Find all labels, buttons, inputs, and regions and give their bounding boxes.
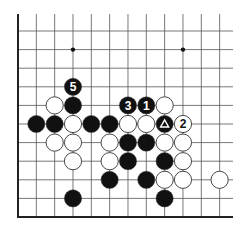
go-board: 5312 bbox=[0, 0, 249, 230]
black-stone-icon bbox=[83, 115, 100, 132]
white-stone-icon bbox=[101, 153, 118, 170]
white-stone bbox=[156, 171, 173, 188]
black-stone bbox=[101, 171, 118, 188]
white-stone bbox=[46, 97, 63, 114]
black-stone: 5 bbox=[64, 78, 81, 95]
black-stone bbox=[156, 153, 173, 170]
move-number-label: 2 bbox=[180, 117, 187, 131]
black-stone bbox=[156, 115, 173, 132]
black-stone-icon bbox=[101, 171, 118, 188]
white-stone bbox=[138, 115, 155, 132]
white-stone-icon bbox=[138, 115, 155, 132]
white-stone bbox=[156, 97, 173, 114]
black-stone bbox=[28, 115, 45, 132]
white-stone bbox=[101, 153, 118, 170]
black-stone-icon bbox=[156, 190, 173, 207]
white-stone bbox=[64, 134, 81, 151]
move-number-label: 5 bbox=[70, 80, 77, 94]
white-stone-icon bbox=[46, 134, 63, 151]
white-stone: 2 bbox=[174, 115, 191, 132]
white-stone bbox=[119, 115, 136, 132]
black-stone-icon bbox=[138, 171, 155, 188]
black-stone-icon bbox=[64, 97, 81, 114]
white-stone bbox=[174, 171, 191, 188]
white-stone bbox=[46, 134, 63, 151]
white-stone bbox=[174, 134, 191, 151]
white-stone bbox=[174, 153, 191, 170]
white-stone bbox=[156, 134, 173, 151]
white-stone bbox=[64, 115, 81, 132]
black-stone: 3 bbox=[119, 97, 136, 114]
black-stone bbox=[101, 115, 118, 132]
black-stone bbox=[64, 190, 81, 207]
black-stone-icon bbox=[156, 153, 173, 170]
move-number-label: 1 bbox=[143, 99, 150, 113]
white-stone-icon bbox=[64, 115, 81, 132]
black-stone-icon bbox=[28, 115, 45, 132]
black-stone-icon bbox=[46, 115, 63, 132]
black-stone bbox=[138, 171, 155, 188]
white-stone-icon bbox=[64, 134, 81, 151]
star-point-icon bbox=[181, 47, 185, 51]
white-stone-icon bbox=[174, 153, 191, 170]
white-stone-icon bbox=[174, 171, 191, 188]
black-stone-icon bbox=[101, 115, 118, 132]
white-stone-icon bbox=[101, 134, 118, 151]
white-stone bbox=[64, 153, 81, 170]
black-stone bbox=[138, 134, 155, 151]
white-stone bbox=[211, 171, 228, 188]
black-stone bbox=[156, 190, 173, 207]
black-stone-icon bbox=[64, 190, 81, 207]
black-stone-icon bbox=[156, 115, 173, 132]
white-stone-icon bbox=[64, 153, 81, 170]
white-stone-icon bbox=[174, 134, 191, 151]
black-stone: 1 bbox=[138, 97, 155, 114]
black-stone-icon bbox=[138, 134, 155, 151]
white-stone-icon bbox=[46, 97, 63, 114]
black-stone bbox=[64, 97, 81, 114]
black-stone bbox=[83, 115, 100, 132]
white-stone-icon bbox=[156, 171, 173, 188]
black-stone bbox=[46, 115, 63, 132]
black-stone bbox=[119, 153, 136, 170]
white-stone-icon bbox=[156, 97, 173, 114]
star-point-icon bbox=[71, 47, 75, 51]
white-stone-icon bbox=[211, 171, 228, 188]
white-stone-icon bbox=[119, 115, 136, 132]
move-number-label: 3 bbox=[125, 99, 132, 113]
black-stone bbox=[119, 134, 136, 151]
white-stone bbox=[101, 134, 118, 151]
white-stone-icon bbox=[156, 134, 173, 151]
black-stone-icon bbox=[119, 134, 136, 151]
black-stone-icon bbox=[119, 153, 136, 170]
